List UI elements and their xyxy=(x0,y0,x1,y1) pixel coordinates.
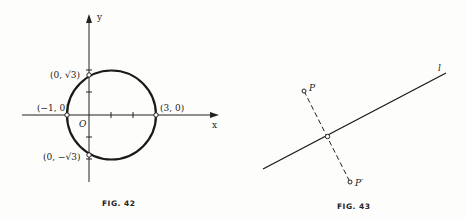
point-label-left: (−1, 0) xyxy=(37,103,69,113)
x-axis-arrow-icon xyxy=(210,112,219,118)
y-axis-label: y xyxy=(96,12,103,22)
figures-canvas: y x O (0, √3) (−1, 0) (3, 0) (0, −√3) FI… xyxy=(0,0,466,219)
x-axis-label: x xyxy=(212,120,217,130)
fig43: P P′ l FIG. 43 xyxy=(263,63,446,211)
point-p-marker xyxy=(302,89,306,93)
line-l-label: l xyxy=(438,63,441,73)
point-label-top: (0, √3) xyxy=(50,70,80,80)
point-p-label: P xyxy=(308,83,316,93)
fig43-caption: FIG. 43 xyxy=(337,202,370,211)
point-label-right: (3, 0) xyxy=(160,103,184,113)
fig42: y x O (0, √3) (−1, 0) (3, 0) (0, −√3) FI… xyxy=(22,12,219,208)
point-p-prime-label: P′ xyxy=(354,178,363,188)
line-l xyxy=(263,73,446,169)
y-axis-arrow-icon xyxy=(86,14,92,23)
origin-label: O xyxy=(79,119,87,129)
midpoint-marker xyxy=(325,134,329,138)
point-label-bottom: (0, −√3) xyxy=(43,152,80,162)
fig42-caption: FIG. 42 xyxy=(102,199,135,208)
point-p-prime-marker xyxy=(348,180,352,184)
